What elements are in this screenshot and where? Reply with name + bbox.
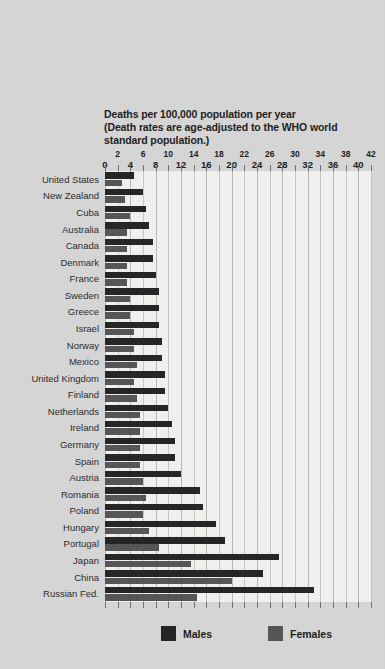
gridline: [232, 171, 233, 602]
x-axis-tickmark: [168, 602, 169, 608]
bar-male: [105, 355, 162, 361]
bar-male: [105, 239, 153, 245]
bar-female: [105, 462, 140, 468]
bar-female: [105, 495, 146, 501]
bar-male: [105, 189, 143, 195]
gridline: [346, 171, 347, 602]
bar-male: [105, 438, 175, 444]
bar-female: [105, 196, 125, 202]
gridline: [333, 171, 334, 602]
x-axis-tickmarks-bottom: [105, 602, 371, 608]
chart-title: Deaths per 100,000 population per year (…: [104, 108, 379, 148]
chart-legend: Males Females: [0, 626, 385, 650]
bar-male: [105, 388, 165, 394]
x-axis-tickmark: [130, 602, 131, 608]
bar-female: [105, 180, 122, 186]
bar-female: [105, 279, 127, 285]
x-axis-tickmark: [295, 602, 296, 608]
bar-male: [105, 322, 159, 328]
y-axis-category-label: Austria: [0, 472, 99, 483]
y-axis-category-label: United States: [0, 174, 99, 185]
bar-female: [105, 594, 197, 600]
bar-male: [105, 172, 134, 178]
bar-female: [105, 428, 140, 434]
bar-male: [105, 338, 162, 344]
bar-female: [105, 528, 149, 534]
bar-male: [105, 305, 159, 311]
y-axis-category-label: United Kingdom: [0, 373, 99, 384]
x-axis-tickmark: [371, 602, 372, 608]
x-axis-tickmark: [219, 602, 220, 608]
bar-male: [105, 521, 216, 527]
gridline: [270, 171, 271, 602]
bar-chart: Deaths per 100,000 population per year (…: [0, 0, 385, 669]
y-axis-category-labels: United StatesNew ZealandCubaAustraliaCan…: [0, 171, 99, 602]
y-axis-category-label: Netherlands: [0, 406, 99, 417]
x-axis-tickmark: [257, 602, 258, 608]
chart-title-line-1: Deaths per 100,000 population per year: [104, 108, 379, 121]
x-axis-tickmark: [105, 602, 106, 608]
legend-item-males: Males: [161, 626, 212, 641]
y-axis-category-label: Norway: [0, 340, 99, 351]
y-axis-category-label: Denmark: [0, 257, 99, 268]
bar-female: [105, 346, 134, 352]
y-axis-category-label: Finland: [0, 389, 99, 400]
x-axis-tick-label: 14: [189, 149, 198, 159]
x-axis-tick-label: 42: [366, 149, 375, 159]
y-axis-category-label: Japan: [0, 555, 99, 566]
x-axis-tick-label: 10: [164, 149, 173, 159]
gridline: [257, 171, 258, 602]
legend-swatch-males-icon: [161, 626, 176, 641]
x-axis-tick-label: 18: [214, 149, 223, 159]
bar-male: [105, 222, 149, 228]
bar-male: [105, 371, 165, 377]
bar-female: [105, 395, 137, 401]
bar-female: [105, 544, 159, 550]
bar-female: [105, 229, 127, 235]
y-axis-category-label: Hungary: [0, 522, 99, 533]
x-axis-tick-label: 26: [265, 149, 274, 159]
bar-male: [105, 554, 279, 560]
x-axis-tickmark: [282, 602, 283, 608]
bar-female: [105, 578, 232, 584]
x-axis-tickmark: [156, 602, 157, 608]
bar-male: [105, 272, 156, 278]
bar-female: [105, 362, 137, 368]
bar-female: [105, 511, 143, 517]
y-axis-category-label: New Zealand: [0, 190, 99, 201]
bar-male: [105, 537, 225, 543]
x-axis-tick-label: 22: [240, 149, 249, 159]
y-axis-category-label: Romania: [0, 489, 99, 500]
gridline: [320, 171, 321, 602]
y-axis-category-label: Poland: [0, 505, 99, 516]
bar-male: [105, 504, 203, 510]
y-axis-category-label: Germany: [0, 439, 99, 450]
y-axis-category-label: Ireland: [0, 422, 99, 433]
bar-male: [105, 421, 172, 427]
bar-male: [105, 487, 200, 493]
x-axis-tickmark: [346, 602, 347, 608]
x-axis-tickmark: [333, 602, 334, 608]
bar-female: [105, 445, 140, 451]
x-axis-tick-label: 2: [115, 149, 120, 159]
bar-male: [105, 471, 181, 477]
gridline: [371, 171, 372, 602]
y-axis-category-label: Australia: [0, 224, 99, 235]
bar-male: [105, 288, 159, 294]
y-axis-category-label: Russian Fed.: [0, 588, 99, 599]
bar-male: [105, 255, 153, 261]
chart-title-line-2: (Death rates are age-adjusted to the WHO…: [104, 121, 379, 134]
gridline: [244, 171, 245, 602]
legend-label-females: Females: [290, 628, 332, 640]
x-axis-tick-label: 34: [316, 149, 325, 159]
y-axis-category-label: Israel: [0, 323, 99, 334]
bar-female: [105, 296, 130, 302]
bar-male: [105, 570, 263, 576]
y-axis-category-label: Cuba: [0, 207, 99, 218]
x-axis-tickmark: [232, 602, 233, 608]
x-axis-tickmark: [181, 602, 182, 608]
gridline: [282, 171, 283, 602]
y-axis-category-label: Spain: [0, 456, 99, 467]
x-axis-tick-label: 38: [341, 149, 350, 159]
y-axis-category-label: Mexico: [0, 356, 99, 367]
